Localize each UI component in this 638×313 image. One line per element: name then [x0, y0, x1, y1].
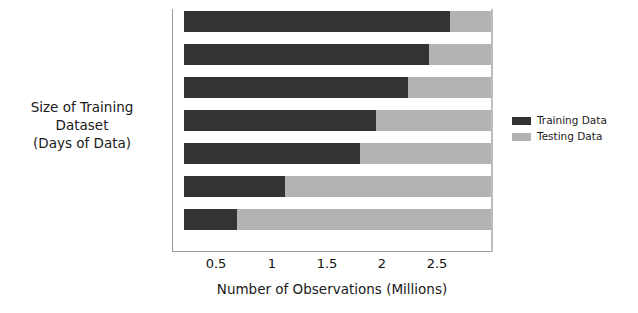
x-tick-label: 2	[357, 256, 407, 271]
x-tick-label: 0.5	[191, 256, 241, 271]
legend-swatch-training-icon	[512, 117, 531, 125]
bar-chart: Size of Training Dataset (Days of Data) …	[0, 0, 638, 313]
x-tick-label: 1	[247, 256, 297, 271]
x-axis-tick-labels: 0.5 1 1.5 2 2.5	[0, 0, 638, 313]
x-tick-label: 1.5	[302, 256, 352, 271]
legend-swatch-testing-icon	[512, 133, 531, 141]
x-tick-label: 2.5	[412, 256, 462, 271]
legend-label-training: Training Data	[537, 114, 607, 127]
chart-legend: Training Data Testing Data	[512, 114, 607, 146]
legend-label-testing: Testing Data	[537, 130, 602, 143]
legend-item-testing-data: Testing Data	[512, 130, 607, 143]
x-axis-title: Number of Observations (Millions)	[172, 281, 492, 297]
legend-item-training-data: Training Data	[512, 114, 607, 127]
